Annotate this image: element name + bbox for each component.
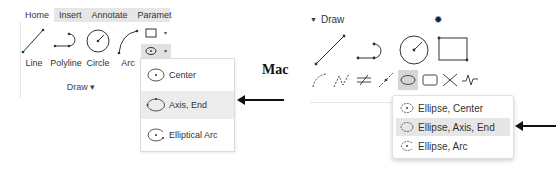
menu-item-label: Axis, End	[169, 100, 207, 110]
ray-icon[interactable]	[376, 70, 396, 90]
rectangle-icon[interactable]	[436, 32, 472, 68]
ellipse-arc-icon	[400, 140, 414, 152]
ellipse-center-icon	[146, 67, 166, 83]
menu-item-label: Elliptical Arc	[169, 130, 218, 140]
menu-item-label: Ellipse, Center	[418, 103, 483, 114]
chevron-down-icon: ▾	[164, 47, 167, 54]
polyline-icon	[51, 26, 81, 56]
circle-label: Circle	[81, 58, 115, 68]
menu-item-label: Ellipse, Axis, End	[418, 122, 495, 133]
platform-label: Mac	[262, 62, 288, 78]
windows-ellipse-menu: Center Axis, End Elliptical Arc	[140, 58, 235, 152]
ellipse-axis-end-icon	[146, 97, 166, 113]
xline-icon[interactable]	[440, 70, 460, 90]
gear-icon[interactable]: ✹	[434, 14, 442, 25]
rectangle-icon	[144, 26, 158, 40]
line-button[interactable]: Line	[17, 26, 51, 68]
tab-insert[interactable]: Insert	[54, 8, 87, 22]
menu-item-axis-end[interactable]: Axis, End	[141, 91, 234, 119]
menu-item-label: Ellipse, Arc	[418, 141, 467, 152]
rectangle-button[interactable]: ▾	[141, 26, 171, 40]
ribbon-tab-bar: Home Insert Annotate Paramet	[20, 8, 170, 22]
ellipse-icon	[144, 44, 158, 58]
ellipse-center-icon	[400, 102, 414, 114]
elliptical-arc-icon	[146, 127, 166, 143]
panel-title: Draw	[321, 14, 344, 25]
multiline-icon[interactable]	[354, 70, 374, 90]
draw-group-label[interactable]: Draw ▾	[21, 82, 141, 92]
tab-home[interactable]: Home	[20, 8, 54, 22]
menu-item-center[interactable]: Center	[141, 61, 234, 89]
arc-icon[interactable]	[310, 70, 330, 90]
polyline-icon[interactable]	[354, 32, 390, 68]
arrow-left-icon	[522, 125, 556, 127]
ellipse-button[interactable]: ▾	[141, 44, 171, 58]
ellipse-icon[interactable]	[398, 70, 418, 90]
menu-item-label: Center	[169, 70, 196, 80]
menu-item-ellipse-center[interactable]: Ellipse, Center	[396, 99, 510, 117]
rectangle-small-icon[interactable]	[420, 70, 440, 90]
polyline-label: Polyline	[49, 58, 83, 68]
chevron-down-icon: ▾	[164, 29, 167, 36]
ellipse-axis-end-icon	[400, 121, 414, 133]
menu-item-elliptical-arc[interactable]: Elliptical Arc	[141, 121, 234, 149]
menu-item-ellipse-arc[interactable]: Ellipse, Arc	[396, 137, 510, 155]
disclosure-triangle-icon: ▼	[310, 16, 317, 23]
circle-button[interactable]: Circle	[81, 26, 115, 68]
spline-icon[interactable]	[332, 70, 352, 90]
circle-icon[interactable]	[396, 32, 432, 68]
revcloud-icon[interactable]	[460, 70, 480, 90]
polyline-button[interactable]: Polyline	[49, 26, 83, 68]
line-icon	[19, 26, 49, 56]
menu-item-ellipse-axis-end[interactable]: Ellipse, Axis, End	[396, 118, 510, 136]
line-icon[interactable]	[312, 32, 348, 68]
tab-annotate[interactable]: Annotate	[87, 8, 133, 22]
line-label: Line	[17, 58, 51, 68]
arrow-left-icon	[244, 99, 284, 101]
circle-icon	[83, 26, 113, 56]
arc-icon	[113, 26, 143, 56]
tab-parametric[interactable]: Paramet	[133, 8, 177, 22]
panel-header[interactable]: ▼Draw	[310, 14, 344, 25]
mac-ellipse-menu: Ellipse, Center Ellipse, Axis, End Ellip…	[392, 95, 514, 159]
